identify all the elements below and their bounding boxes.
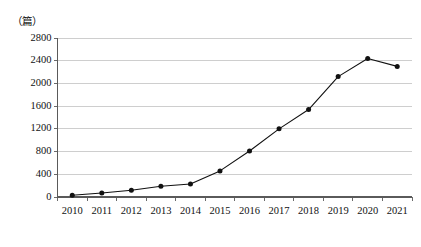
series-line bbox=[72, 58, 397, 195]
axes bbox=[58, 38, 413, 197]
plot-area bbox=[0, 0, 421, 247]
gridlines bbox=[58, 38, 413, 174]
line-chart: （篇） 040080012001600200024002800 20102011… bbox=[0, 0, 421, 247]
data-point bbox=[247, 149, 252, 154]
data-point bbox=[188, 181, 193, 186]
data-point bbox=[365, 56, 370, 61]
data-point bbox=[217, 168, 222, 173]
data-point bbox=[158, 184, 163, 189]
axis-tickmarks bbox=[54, 38, 412, 201]
data-point bbox=[99, 191, 104, 196]
data-point bbox=[395, 64, 400, 69]
data-point bbox=[336, 74, 341, 79]
data-point bbox=[70, 193, 75, 198]
data-point bbox=[306, 107, 311, 112]
data-point bbox=[277, 126, 282, 131]
series-markers bbox=[70, 56, 400, 198]
data-point bbox=[129, 188, 134, 193]
